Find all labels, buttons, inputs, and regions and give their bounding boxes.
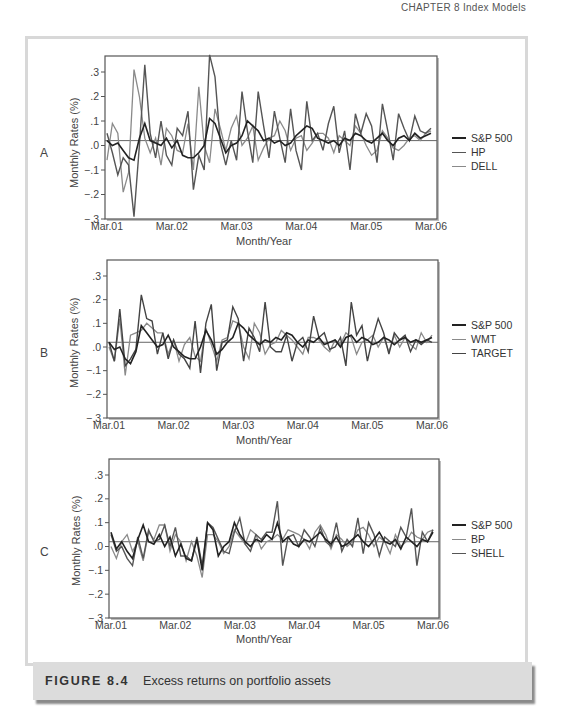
legend-item: SHELL [452, 546, 512, 560]
chart-panel-c: C Monthly Rates (%) .3.2.1.0−.1−.2−.3Mar… [0, 0, 566, 200]
x-tick-label: Mar.06 [417, 619, 449, 631]
caption-text: Excess returns on portfolio assets [143, 674, 331, 688]
legend-swatch [452, 524, 466, 526]
legend-item: BP [452, 532, 512, 546]
y-tick-label: .2 [94, 492, 103, 504]
x-tick-label: Mar.02 [159, 619, 191, 631]
y-tick-label: −.1 [88, 564, 103, 576]
legend-swatch [452, 539, 466, 540]
legend-item: S&P 500 [452, 518, 512, 532]
y-tick-label: .3 [94, 469, 103, 481]
x-tick-label: Mar.04 [288, 619, 320, 631]
x-tick-label: Mar.01 [95, 619, 127, 631]
legend: S&P 500 BP SHELL [452, 518, 512, 560]
figure-number: FIGURE 8.4 [45, 674, 129, 688]
plot-area [109, 459, 439, 618]
y-tick-label: .0 [94, 540, 103, 552]
y-tick-label: −.2 [88, 588, 103, 600]
legend-swatch [452, 553, 466, 554]
x-tick-label: Mar.05 [353, 619, 385, 631]
x-tick-label: Mar.03 [224, 619, 256, 631]
x-axis-label: Month/Year [236, 633, 292, 645]
y-tick-label: .1 [94, 516, 103, 528]
figure-caption: FIGURE 8.4 Excess returns on portfolio a… [33, 662, 532, 700]
